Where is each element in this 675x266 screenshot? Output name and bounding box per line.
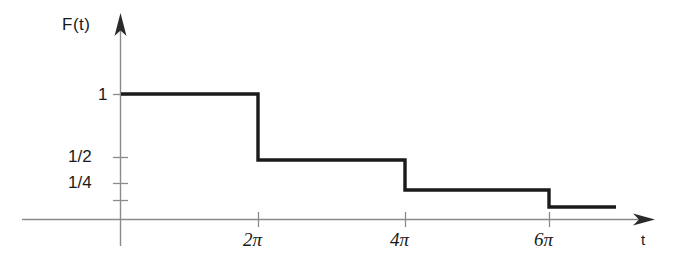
plot-canvas — [0, 0, 675, 266]
y-tick-label-1: 1 — [98, 86, 107, 103]
y-tick-label-one-half: 1/2 — [68, 148, 92, 165]
y-tick-label-one-quarter: 1/4 — [68, 174, 92, 191]
x-tick-label-4pi: 4π — [390, 230, 409, 249]
step-function-figure: F(t) 1 1/2 1/4 2π 4π 6π t — [0, 0, 675, 266]
x-tick-label-2pi: 2π — [243, 230, 262, 249]
step-function-curve — [121, 94, 616, 207]
y-axis-label: F(t) — [62, 16, 90, 33]
x-axis-label: t — [641, 232, 645, 247]
x-tick-label-6pi: 6π — [534, 230, 553, 249]
